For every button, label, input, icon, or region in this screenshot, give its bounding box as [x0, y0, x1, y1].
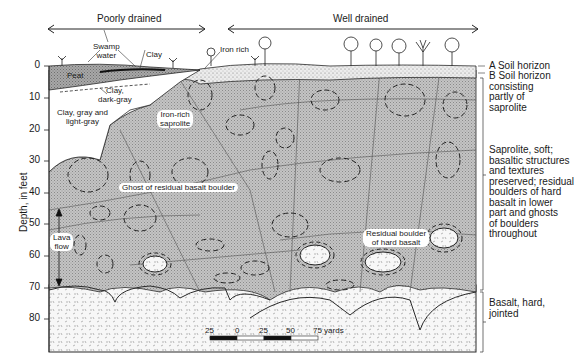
clay-gray-label: Clay, gray and light-gray	[57, 108, 108, 126]
tick-30: 30	[20, 154, 40, 165]
well-drained-arrow	[228, 25, 478, 33]
scale-tick-25-left: 25	[205, 326, 214, 335]
residual-boulder-label: Residual boulder of hard basalt	[363, 229, 429, 247]
legend-brackets	[480, 78, 486, 352]
poorly-drained-arrow	[48, 25, 205, 33]
ghost-boulder-label: Ghost of residual basalt boulder	[119, 183, 238, 192]
clay-label: Clay	[146, 50, 162, 59]
swamp-water-label: Swamp water	[93, 42, 120, 60]
scale-tick-75: 75 yards	[313, 326, 344, 335]
tick-0: 0	[20, 59, 40, 70]
clay-dark-gray-label: Clay, dark-gray	[98, 86, 132, 104]
well-drained-label: Well drained	[333, 13, 388, 24]
iron-rich-label: Iron rich	[220, 45, 249, 54]
b-horizon-label: B Soil horizon consisting partly of sapr…	[489, 71, 551, 113]
tick-20: 20	[20, 123, 40, 134]
peat-label: Peat	[67, 71, 83, 80]
saprolite-label: Saprolite, soft; basaltic structures and…	[489, 145, 574, 240]
tick-10: 10	[20, 91, 40, 102]
scale-tick-0: 0	[235, 326, 239, 335]
scale-tick-50: 50	[286, 326, 295, 335]
iron-rich-saprolite-label: Iron-rich saprolite	[157, 110, 193, 128]
scale-tick-25: 25	[259, 326, 268, 335]
y-axis-label: Depth, in feet	[18, 173, 29, 232]
basalt-label: Basalt, hard, jointed	[489, 298, 545, 319]
tick-60: 60	[20, 249, 40, 260]
y-axis	[44, 66, 49, 352]
tick-70: 70	[20, 281, 40, 292]
scale-bar	[210, 336, 318, 340]
poorly-drained-label: Poorly drained	[97, 13, 161, 24]
tick-80: 80	[20, 312, 40, 323]
lava-flow-label: Lava flow	[50, 233, 73, 251]
